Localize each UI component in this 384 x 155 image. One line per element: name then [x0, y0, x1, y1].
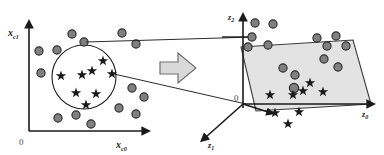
data-point-dot: [244, 43, 252, 51]
z1-axis-label: z1: [207, 141, 214, 151]
data-point-dot: [72, 111, 80, 119]
data-point-star: [71, 88, 81, 98]
data-point-dot: [332, 32, 340, 40]
data-point-dot: [68, 30, 76, 38]
data-point-star: [283, 119, 293, 129]
data-point-dot: [320, 55, 328, 63]
data-point-star: [87, 66, 97, 76]
transform-arrow-shape: [160, 53, 196, 83]
data-point-star: [91, 89, 101, 99]
data-point-dot: [313, 34, 321, 42]
data-point-dot: [291, 71, 299, 79]
data-point-dot: [248, 33, 256, 41]
z0-axis-label: z0: [361, 110, 368, 120]
left-y-axis-label-sub: c1: [13, 34, 19, 40]
data-point-dot: [128, 84, 136, 92]
data-point-dot: [54, 114, 62, 122]
data-point-dot: [279, 64, 287, 72]
data-point-dot: [342, 42, 350, 50]
data-point-star: [98, 56, 108, 66]
z2-axis-label-sub: 2: [230, 17, 234, 23]
data-point-dot: [264, 41, 272, 49]
z1-axis: [206, 104, 243, 137]
z1-axis-label-sub: 1: [211, 145, 214, 151]
data-point-star: [56, 71, 66, 81]
data-point-dot: [334, 63, 342, 71]
left-panel-group: [29, 27, 148, 131]
kernel-mapping-figure: xc1 xc0 0 z2 z1 z0 0: [0, 0, 384, 155]
data-point-dot: [132, 110, 140, 118]
data-point-dot: [35, 47, 43, 55]
left-star-markers: [56, 56, 117, 110]
left-x-axis-label-sub: c0: [121, 146, 127, 152]
data-point-star: [81, 100, 91, 110]
data-point-dot: [289, 83, 298, 92]
left-origin-label: 0: [19, 137, 24, 147]
data-point-dot: [115, 104, 123, 112]
data-point-dot: [87, 120, 95, 128]
right-panel-group: [206, 19, 371, 137]
data-point-dot: [269, 20, 277, 28]
z2-axis-label: z2: [227, 13, 234, 23]
transform-arrow: [160, 53, 196, 83]
right-origin-label: 0: [234, 93, 239, 103]
figure-canvas: xc1 xc0 0 z2 z1 z0 0: [0, 0, 384, 155]
data-point-dot: [132, 40, 140, 48]
separating-hyperplane: [241, 40, 371, 111]
z0-axis-label-sub: 0: [365, 114, 368, 120]
data-point-dot: [118, 29, 126, 37]
data-point-dot: [37, 69, 45, 77]
data-point-dot: [53, 46, 61, 54]
data-point-star: [77, 70, 87, 80]
data-point-dot: [140, 93, 148, 101]
left-x-axis-label: xc0: [115, 139, 127, 152]
data-point-dot: [251, 19, 259, 27]
upper-connector-line: [86, 37, 254, 42]
left-y-axis-label: xc1: [7, 27, 19, 40]
data-point-dot: [323, 42, 331, 50]
